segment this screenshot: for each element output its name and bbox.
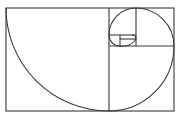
golden-spiral-curve: [6, 8, 174, 111]
outer-golden-rectangle: [6, 8, 174, 111]
golden-spiral-diagram: [0, 0, 178, 115]
